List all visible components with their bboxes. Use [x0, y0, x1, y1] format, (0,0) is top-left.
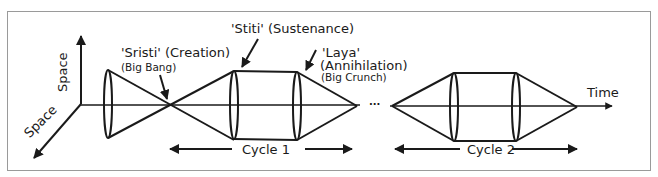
- space-vertical-label: Space: [56, 52, 69, 92]
- annihilation-pointer-arrow: [306, 50, 316, 70]
- sustenance-label: 'Stiti' (Sustenance): [231, 22, 354, 35]
- creation-label: 'Sristi' (Creation): [121, 46, 230, 59]
- cycle2-label: Cycle 2: [467, 143, 515, 156]
- cycle1-label: Cycle 1: [242, 143, 290, 156]
- creation-pointer-arrow: [160, 75, 167, 99]
- annihilation-sublabel: (Big Crunch): [321, 72, 387, 83]
- sustenance-pointer-arrow: [242, 39, 258, 67]
- cycle1-annihilation-ellipse: [293, 72, 301, 140]
- time-axis-label: Time: [587, 86, 619, 99]
- cycle2-ellipse-right: [512, 73, 520, 141]
- cycle2-ellipse-left: [450, 73, 458, 141]
- initial-cone-ellipse: [104, 70, 112, 138]
- creation-sublabel: (Big Bang): [121, 62, 176, 73]
- continuation-dots: ...: [369, 97, 380, 107]
